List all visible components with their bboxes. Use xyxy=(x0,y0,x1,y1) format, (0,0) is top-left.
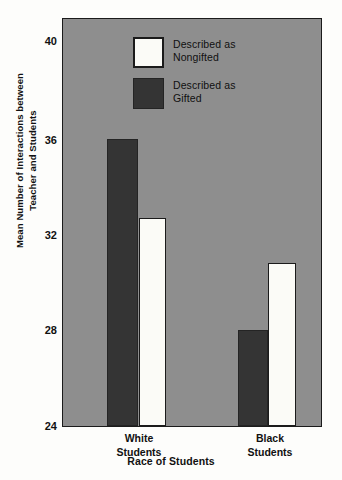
y-tick-label-28: 28 xyxy=(17,324,57,336)
legend-swatch-nongifted xyxy=(133,37,164,68)
legend-item-gifted: Described as Gifted xyxy=(133,78,235,109)
plot-inner: Described as Nongifted Described as Gift… xyxy=(63,19,321,426)
legend-item-nongifted: Described as Nongifted xyxy=(133,37,235,68)
legend-label-nongifted: Described as Nongifted xyxy=(173,37,235,64)
plot-area: Described as Nongifted Described as Gift… xyxy=(62,18,322,427)
legend-label-nongifted-line-1: Described as xyxy=(173,38,235,51)
bar-chart-figure: Mean Number of Interactions between Teac… xyxy=(0,0,342,480)
legend-label-gifted-line-1: Described as xyxy=(173,79,235,92)
y-tick-label-40: 40 xyxy=(17,35,57,47)
bar-white-students-gifted xyxy=(107,139,138,426)
y-tick-label-36: 36 xyxy=(17,134,57,146)
y-tick-label-24: 24 xyxy=(17,420,57,432)
legend: Described as Nongifted Described as Gift… xyxy=(133,37,235,119)
x-axis-title: Race of Students xyxy=(0,455,342,467)
legend-label-gifted: Described as Gifted xyxy=(173,78,235,105)
legend-label-gifted-line-2: Gifted xyxy=(173,92,235,105)
x-category-label-white-students-line-1: White xyxy=(84,431,194,445)
y-tick-label-32: 32 xyxy=(17,229,57,241)
bar-black-students-nongifted xyxy=(268,263,296,426)
bar-black-students-gifted xyxy=(238,330,268,426)
x-category-label-black-students-line-1: Black xyxy=(215,431,325,445)
bar-white-students-nongifted xyxy=(139,218,166,426)
legend-label-nongifted-line-2: Nongifted xyxy=(173,51,235,64)
legend-swatch-gifted xyxy=(133,78,164,109)
